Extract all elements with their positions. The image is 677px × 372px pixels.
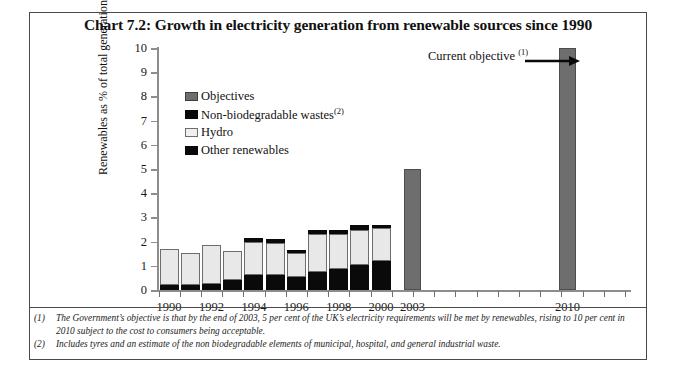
legend-item-objectives: Objectives: [185, 88, 344, 105]
legend-swatch-other-renewables: [185, 146, 198, 155]
bar-segment-other-renewables: [266, 275, 285, 290]
x-tick: [540, 291, 541, 297]
legend-superscript-2: (2): [334, 106, 344, 116]
y-tick-label-3: 3: [141, 210, 147, 225]
bar-1997: [308, 230, 327, 291]
bar-segment-non-biodegradable-wastes: [329, 230, 348, 235]
bar-segment-other-renewables: [223, 280, 242, 290]
current-objective-annotation: Current objective (1): [428, 47, 528, 64]
x-tick: [201, 291, 202, 297]
x-tick: [349, 291, 350, 297]
legend-item-hydro: Hydro: [185, 124, 344, 141]
bar-1991: [181, 253, 200, 291]
y-tick-5: [151, 169, 157, 171]
bar-segment-hydro: [266, 243, 285, 276]
y-tick-label-6: 6: [141, 137, 147, 152]
bar-segment-hydro: [202, 245, 221, 284]
y-tick-label-9: 9: [141, 65, 147, 80]
bar-2000: [372, 225, 391, 290]
y-tick-8: [151, 96, 157, 98]
bar-1994: [244, 238, 263, 290]
x-tick: [477, 291, 478, 297]
bar-segment-other-renewables: [202, 284, 221, 290]
x-tick: [434, 291, 435, 297]
bar-1992: [202, 245, 221, 290]
y-tick-4: [151, 193, 157, 195]
footnotes: (1) The Government’s objective is that b…: [34, 312, 642, 351]
bar-segment-other-renewables: [308, 272, 327, 290]
bar-segment-hydro: [160, 249, 179, 285]
x-tick: [328, 291, 329, 297]
bar-segment-other-renewables: [244, 275, 263, 290]
y-tick-6: [151, 145, 157, 147]
bar-1995: [266, 239, 285, 290]
x-tick: [286, 291, 287, 297]
legend-label-other-renewables: Other renewables: [201, 143, 289, 158]
bar-1999: [350, 225, 369, 290]
y-tick-label-0: 0: [141, 283, 147, 298]
y-tick-label-5: 5: [141, 162, 147, 177]
bar-segment-other-renewables: [372, 261, 391, 290]
x-tick: [371, 291, 372, 297]
bar-segment-other-renewables: [329, 269, 348, 290]
y-tick-1: [151, 266, 157, 268]
legend-swatch-hydro: [185, 128, 198, 137]
y-tick-label-7: 7: [141, 113, 147, 128]
y-tick-label-10: 10: [135, 41, 148, 56]
x-tick: [413, 291, 414, 297]
bar-segment-other-renewables: [181, 285, 200, 290]
bar-segment-other-renewables: [287, 277, 306, 290]
y-axis-title: Renewables as % of total generation: [96, 0, 111, 175]
y-tick-0: [151, 290, 157, 292]
y-tick-9: [151, 72, 157, 74]
bar-segment-hydro: [223, 251, 242, 280]
x-tick: [222, 291, 223, 297]
bar-segment-non-biodegradable-wastes: [244, 238, 263, 242]
x-tick: [498, 291, 499, 297]
bar-objective-2010: [559, 48, 576, 290]
bar-objective-2003: [404, 169, 421, 290]
bar-1993: [223, 251, 242, 290]
chart-page: Chart 7.2: Growth in electricity generat…: [0, 0, 677, 372]
chart-title: Chart 7.2: Growth in electricity generat…: [29, 16, 647, 34]
y-tick-label-2: 2: [141, 234, 147, 249]
x-tick: [625, 291, 626, 297]
x-tick: [604, 291, 605, 297]
bar-segment-non-biodegradable-wastes: [287, 250, 306, 252]
x-tick: [243, 291, 244, 297]
x-axis-line: [157, 290, 631, 292]
footnote-1-number: (1): [34, 312, 56, 337]
x-tick: [519, 291, 520, 297]
plot-area: 012345678910 199019921994199619982000200…: [157, 47, 631, 291]
legend-item-other-renewables: Other renewables: [185, 142, 344, 159]
legend-label-hydro: Hydro: [201, 125, 233, 140]
y-axis-line: [157, 47, 159, 291]
y-tick-7: [151, 121, 157, 123]
chart-legend: Objectives Non-biodegradable wastes(2) H…: [185, 88, 344, 160]
bar-segment-non-biodegradable-wastes: [308, 230, 327, 235]
bar-segment-non-biodegradable-wastes: [372, 225, 391, 229]
current-objective-label: Current objective: [428, 49, 515, 63]
bar-segment-hydro: [350, 230, 369, 265]
legend-label-objectives: Objectives: [201, 89, 254, 104]
x-tick: [392, 291, 393, 297]
footnote-2: (2) Includes tyres and an estimate of th…: [34, 338, 642, 351]
bar-segment-hydro: [329, 234, 348, 269]
bar-1998: [329, 230, 348, 291]
bar-segment-non-biodegradable-wastes: [350, 225, 369, 230]
y-tick-10: [151, 48, 157, 50]
y-tick-label-4: 4: [141, 186, 147, 201]
footnote-2-text: Includes tyres and an estimate of the no…: [56, 338, 642, 351]
footnote-2-number: (2): [34, 338, 56, 351]
bar-1996: [287, 250, 306, 290]
bar-1990: [160, 249, 179, 290]
legend-item-non-biodegradable-wastes: Non-biodegradable wastes(2): [185, 106, 344, 123]
legend-swatch-objectives: [185, 92, 198, 101]
x-tick: [561, 291, 562, 297]
x-tick: [583, 291, 584, 297]
footnote-1: (1) The Government’s objective is that b…: [34, 312, 642, 337]
bar-segment-hydro: [287, 253, 306, 277]
x-tick: [307, 291, 308, 297]
arrow-right-icon: [525, 56, 580, 66]
footnote-divider: [29, 307, 647, 308]
